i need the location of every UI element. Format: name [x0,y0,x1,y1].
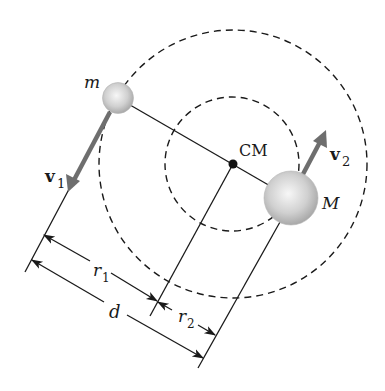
small-mass-sphere [103,83,134,114]
label-r2-sub: 2 [187,317,195,331]
two-body-diagram: m M CM v 1 v 2 r 1 r 2 d [0,0,385,391]
large-mass-sphere [264,171,318,225]
label-large-mass: M [321,193,340,213]
label-v1-main: v [44,166,56,186]
label-v2: v 2 [329,144,350,169]
label-v2-main: v [329,144,341,164]
label-v2-sub: 2 [342,154,350,169]
label-r2: r 2 [178,306,195,331]
r2-dimension-left [158,302,172,310]
r1-dimension-left [44,235,90,261]
label-r1: r 1 [93,260,110,285]
label-v1-sub: 1 [57,176,65,191]
extension-line-M [198,222,280,368]
label-r2-main: r [178,306,187,326]
r1-dimension-right [111,273,157,301]
center-of-mass-dot [229,160,238,169]
velocity-arrow-v1 [66,112,110,192]
label-r1-sub: 1 [102,271,110,285]
diagram-canvas: m M CM v 1 v 2 r 1 r 2 d [0,0,385,391]
extension-line-cm [150,164,233,316]
label-center-of-mass: CM [239,141,268,160]
label-v1: v 1 [44,166,65,191]
label-small-mass: m [84,72,100,92]
label-separation: d [109,301,121,322]
label-r1-main: r [93,260,102,280]
velocity-arrow-v2 [302,130,327,176]
r2-dimension-right [198,325,215,335]
